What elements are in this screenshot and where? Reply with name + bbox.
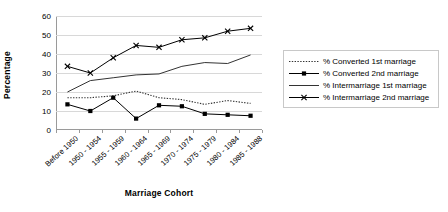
y-axis-tick-label: 40	[31, 50, 51, 59]
y-axis-tick-label: 30	[31, 69, 51, 78]
data-point-marker	[157, 103, 161, 107]
line-chart: Percentage 0102030405060 Before 19501950…	[0, 0, 448, 212]
data-point-marker	[88, 109, 92, 113]
series-line-0	[67, 91, 250, 104]
y-axis-tick-label: 10	[31, 107, 51, 116]
x-axis-title: Marriage Cohort	[56, 188, 262, 198]
legend-label: % Intermarriage 2nd marriage	[321, 93, 429, 102]
legend-label: % Converted 2nd marriage	[321, 69, 419, 78]
data-point-marker	[203, 112, 207, 116]
x-axis-tick	[170, 130, 171, 133]
legend-item[interactable]: % Converted 2nd marriage	[287, 67, 434, 79]
legend-label: % Intermarriage 1st marriage	[321, 81, 427, 90]
legend-key-swatch	[287, 92, 321, 103]
data-point-marker	[180, 104, 184, 108]
series-line-2	[67, 55, 250, 92]
x-axis-tick	[262, 130, 263, 133]
legend-key-swatch	[287, 80, 321, 91]
y-axis-tick-label: 0	[31, 126, 51, 135]
data-point-marker	[134, 117, 138, 121]
data-point-marker	[302, 71, 306, 75]
x-axis-tick	[193, 130, 194, 133]
x-axis-tick	[216, 130, 217, 133]
legend-key-swatch	[287, 56, 321, 67]
y-axis-tick-label: 60	[31, 12, 51, 21]
y-axis-tick-label: 20	[31, 88, 51, 97]
legend-item[interactable]: % Converted 1st marriage	[287, 55, 434, 67]
legend-label: % Converted 1st marriage	[321, 57, 416, 66]
data-point-marker	[111, 96, 115, 100]
x-axis-tick	[102, 130, 103, 133]
x-axis-tick	[125, 130, 126, 133]
x-axis-tick	[239, 130, 240, 133]
legend-item[interactable]: % Intermarriage 1st marriage	[287, 79, 434, 91]
plot-area: 0102030405060	[56, 16, 262, 130]
legend-key-swatch	[287, 68, 321, 79]
y-axis-tick-label: 50	[31, 31, 51, 40]
y-axis-title: Percentage	[2, 42, 16, 108]
series-line-3	[67, 28, 250, 73]
x-axis-tick	[56, 130, 57, 133]
legend-item[interactable]: % Intermarriage 2nd marriage	[287, 91, 434, 103]
data-point-marker	[226, 113, 230, 117]
data-point-marker	[65, 102, 69, 106]
series-layer	[56, 16, 262, 130]
x-axis-tick	[148, 130, 149, 133]
legend: % Converted 1st marriage% Converted 2nd …	[283, 50, 439, 108]
data-point-marker	[248, 114, 252, 118]
x-axis-tick	[79, 130, 80, 133]
x-axis-category-labels: Before 19501950 - 19541955 - 19591960 - …	[56, 134, 262, 184]
